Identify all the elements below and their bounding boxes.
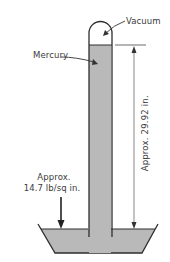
height-label: Approx. 29.92 in. (141, 93, 150, 173)
pressure-arrow (58, 197, 65, 229)
vacuum-label: Vacuum (126, 17, 161, 26)
mercury-label: Mercury (33, 51, 68, 60)
glass-tube (89, 22, 112, 254)
dimension-arrow-top (132, 46, 137, 53)
pressure-arrowhead (58, 220, 65, 229)
mercury-column (89, 45, 111, 253)
pressure-label-line1: Approx. (24, 173, 84, 182)
dimension-arrow-bottom (132, 222, 137, 229)
pressure-label-line2: 14.7 lb/sq in. (12, 184, 92, 193)
